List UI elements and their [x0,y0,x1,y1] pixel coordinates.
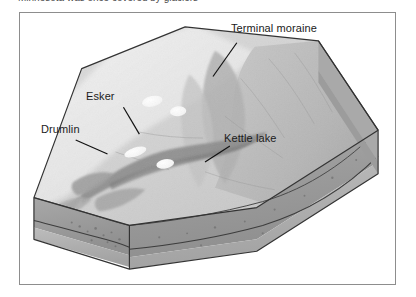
label-esker: Esker [86,90,115,102]
label-terminal-moraine: Terminal moraine [231,22,317,34]
label-drumlin: Drumlin [41,123,80,135]
clipped-header-text: Minnesota was once covered by glaciers [18,0,318,4]
block-diagram-illustration [20,13,395,284]
label-kettle-lake: Kettle lake [224,132,276,144]
figure-frame: Terminal moraine Esker Drumlin Kettle la… [19,12,396,285]
